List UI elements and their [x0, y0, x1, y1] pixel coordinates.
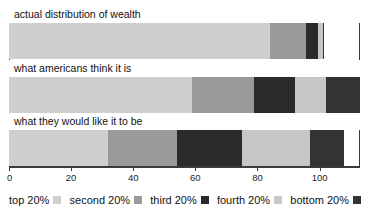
bar-segment [192, 77, 254, 113]
legend-item[interactable]: bottom 20% [290, 194, 361, 206]
x-axis-tick [257, 167, 258, 171]
x-axis-tick [320, 167, 321, 171]
x-axis-tick-label: 80 [252, 172, 263, 183]
x-axis-tick [71, 167, 72, 171]
bar-segment [9, 23, 270, 59]
x-axis-tick-label: 0 [7, 172, 12, 183]
bar-segment [177, 130, 242, 166]
bar-segment [270, 23, 306, 59]
legend-label: top 20% [9, 194, 49, 206]
bar-group-label: what americans think it is [9, 60, 365, 77]
bar-segment [9, 130, 108, 166]
stacked-bar [9, 23, 360, 59]
x-axis-tick-label: 40 [128, 172, 139, 183]
x-axis-tick [133, 167, 134, 171]
legend-label: fourth 20% [217, 194, 270, 206]
legend-label: second 20% [70, 194, 131, 206]
chart-legend: top 20%second 20%third 20%fourth 20%bott… [9, 191, 361, 209]
legend-swatch-icon [353, 196, 361, 204]
legend-item[interactable]: third 20% [150, 194, 208, 206]
bar-group-label: what they would like it to be [9, 113, 365, 130]
bar-group: what they would like it to be [0, 113, 369, 167]
bar-segment [310, 130, 344, 166]
x-axis-tick [195, 167, 196, 171]
legend-item[interactable]: fourth 20% [217, 194, 282, 206]
legend-swatch-icon [201, 196, 209, 204]
bar-segment [108, 130, 176, 166]
bar-segment [242, 130, 310, 166]
bar-segment [323, 23, 324, 59]
wealth-distribution-chart: actual distribution of wealthwhat americ… [0, 0, 369, 215]
legend-label: bottom 20% [290, 194, 349, 206]
bar-group-label: actual distribution of wealth [9, 6, 365, 23]
x-axis-tick-label: 20 [66, 172, 77, 183]
x-axis-tick-label: 100 [312, 172, 328, 183]
bar-segment [306, 23, 318, 59]
legend-swatch-icon [274, 196, 282, 204]
stacked-bar [9, 130, 360, 166]
legend-swatch-icon [134, 196, 142, 204]
x-axis-tick-label: 60 [190, 172, 201, 183]
legend-item[interactable]: second 20% [70, 194, 143, 206]
bar-segment [295, 77, 326, 113]
stacked-bar [9, 77, 360, 113]
legend-label: third 20% [150, 194, 196, 206]
bar-segment [9, 77, 192, 113]
legend-swatch-icon [53, 196, 61, 204]
x-axis-tick [9, 167, 10, 171]
bar-segment [326, 77, 360, 113]
legend-item[interactable]: top 20% [9, 194, 61, 206]
bar-group: what americans think it is [0, 60, 369, 114]
bar-segment [254, 77, 294, 113]
x-axis-line [9, 167, 360, 168]
bar-group: actual distribution of wealth [0, 6, 369, 60]
